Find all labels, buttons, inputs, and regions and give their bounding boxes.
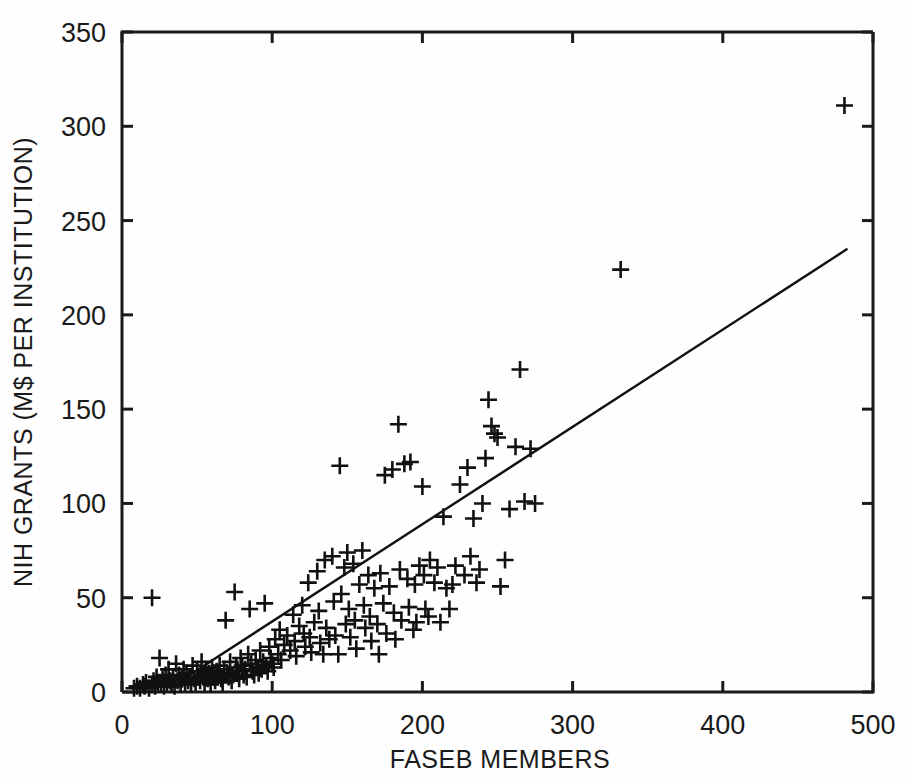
x-tick-label: 500 — [850, 710, 895, 740]
data-point — [337, 616, 354, 633]
x-tick-label: 0 — [114, 710, 129, 740]
y-tick-label: 50 — [76, 584, 106, 614]
x-tick-label: 300 — [550, 710, 595, 740]
data-point — [497, 552, 514, 569]
data-point — [480, 391, 497, 408]
data-point — [459, 459, 476, 476]
data-point — [474, 495, 491, 512]
data-point — [144, 589, 161, 606]
data-point — [385, 604, 402, 621]
data-point — [369, 616, 386, 633]
data-point — [492, 578, 509, 595]
fit-line — [190, 249, 848, 675]
data-point — [300, 574, 317, 591]
data-point — [256, 595, 273, 612]
data-point — [241, 601, 258, 618]
data-point — [429, 559, 446, 576]
y-tick-label: 200 — [61, 301, 106, 331]
data-point — [507, 438, 524, 455]
data-point — [612, 261, 629, 278]
y-tick-label: 250 — [61, 207, 106, 237]
data-point — [512, 361, 529, 378]
y-tick-label: 150 — [61, 395, 106, 425]
data-point — [309, 563, 326, 580]
data-point — [381, 578, 398, 595]
data-point — [447, 557, 464, 574]
x-axis-title: FASEB MEMBERS — [390, 745, 610, 773]
data-point — [370, 646, 387, 663]
y-tick-label: 350 — [61, 18, 106, 48]
data-point — [465, 510, 482, 527]
data-point — [325, 593, 342, 610]
data-point — [316, 552, 333, 569]
data-point — [477, 450, 494, 467]
data-point — [393, 612, 410, 629]
data-point — [462, 548, 479, 565]
data-point — [516, 493, 533, 510]
data-point — [441, 601, 458, 618]
scatter-chart: 0100200300400500 050100150200250300350 F… — [0, 0, 912, 779]
data-point — [351, 576, 368, 593]
y-axis-title: NIH GRANTS (M$ PER INSTITUTION) — [9, 137, 37, 587]
data-point — [400, 599, 417, 616]
data-point — [451, 476, 468, 493]
data-point — [372, 565, 389, 582]
data-point — [330, 646, 347, 663]
data-point — [252, 642, 269, 659]
data-point — [354, 542, 371, 559]
data-point — [375, 595, 392, 612]
y-tick-label: 100 — [61, 489, 106, 519]
y-tick-label: 0 — [91, 678, 106, 708]
y-tick-label: 300 — [61, 112, 106, 142]
data-markers — [126, 97, 853, 697]
data-point — [486, 425, 503, 442]
data-point — [331, 457, 348, 474]
regression-line — [190, 249, 848, 675]
data-point — [151, 650, 168, 667]
data-point — [310, 602, 327, 619]
data-point — [527, 495, 544, 512]
data-point — [226, 584, 243, 601]
data-point — [391, 561, 408, 578]
data-point — [333, 585, 350, 602]
x-tick-label: 200 — [400, 710, 445, 740]
y-tick-labels: 050100150200250300350 — [61, 18, 106, 708]
data-point — [217, 612, 234, 629]
data-point — [468, 574, 485, 591]
data-point — [414, 478, 431, 495]
plot-svg: 0100200300400500 050100150200250300350 F… — [0, 0, 912, 779]
x-tick-label: 400 — [700, 710, 745, 740]
data-point — [405, 621, 422, 638]
x-tick-labels: 0100200300400500 — [114, 710, 895, 740]
data-point — [456, 567, 473, 584]
data-point — [390, 416, 407, 433]
data-point — [471, 561, 488, 578]
x-tick-label: 100 — [250, 710, 295, 740]
data-point — [501, 501, 518, 518]
data-point — [836, 97, 853, 114]
data-point — [415, 567, 432, 584]
data-point — [324, 548, 341, 565]
data-point — [417, 601, 434, 618]
data-point — [315, 646, 332, 663]
